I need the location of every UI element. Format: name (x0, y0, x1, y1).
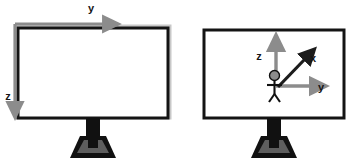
left-monitor: y z (5, 2, 170, 158)
left-y-axis-label: y (88, 2, 95, 14)
figure-canvas: y z z x (0, 0, 350, 168)
left-z-axis-label: z (5, 90, 11, 102)
left-stand-base-post (88, 134, 98, 148)
right-monitor: z x y (204, 30, 344, 158)
coordinate-axes-diagram: y z z x (0, 0, 350, 168)
right-stand-base-post (269, 134, 279, 148)
right-z-axis-label: z (256, 50, 262, 62)
left-monitor-screen (21, 31, 166, 116)
stick-figure-head-icon (270, 71, 280, 81)
right-x-axis-label: x (310, 52, 317, 64)
right-y-axis-label: y (318, 81, 325, 93)
